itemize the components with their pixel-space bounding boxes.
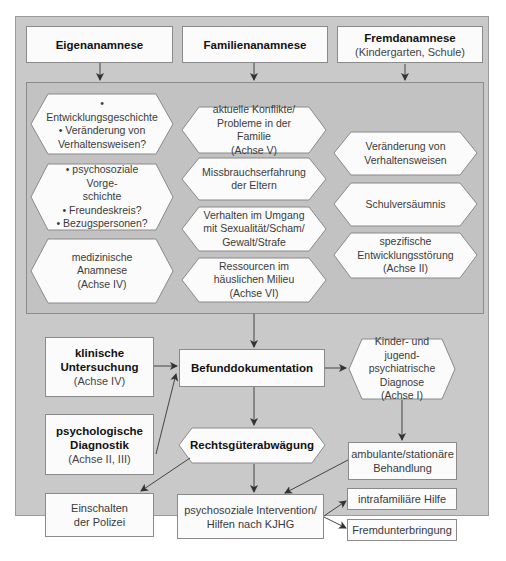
befund-title: Befunddokumentation — [191, 361, 313, 375]
text-line: Missbrauchserfahrung — [202, 166, 306, 180]
familienanamnese-box: Familienanamnese — [182, 26, 328, 63]
intervention-box: psychosoziale Intervention/ Hilfen nach … — [177, 494, 324, 539]
hex-medizinische-anamnese: medizinische Anamnese (Achse IV) — [30, 238, 174, 304]
text-line: Entwicklungsstörung — [357, 249, 453, 263]
psychologische-subtitle: (Achse II, III) — [68, 452, 130, 466]
klinische-untersuchung-box: klinische Untersuchung (Achse IV) — [45, 337, 154, 397]
hex-diagnose: Kinder- und jugend- psychiatrische Diagn… — [348, 338, 456, 400]
text-line: ambulante/stationäre — [351, 447, 454, 461]
text-line: Schulversäumnis — [366, 198, 446, 212]
familienanamnese-title: Familienanamnese — [204, 38, 307, 52]
text-line: spezifische — [357, 235, 453, 249]
text-line: Behandlung — [373, 461, 432, 475]
text-line: aktuelle Konflikte/ — [203, 103, 305, 117]
text-line: (Achse V) — [203, 144, 305, 158]
intrafamiliaere-hilfe-box: intrafamiliäre Hilfe — [347, 488, 457, 510]
polizei-box: Einschalten der Polizei — [45, 493, 154, 537]
text-line: Kinder- und jugend- — [356, 335, 448, 362]
psychologische-title-2: Diagnostik — [70, 438, 129, 452]
text-line: (Achse IV) — [52, 278, 152, 292]
text-line: Einschalten — [71, 501, 128, 515]
text-line: • Bezugspersonen? — [52, 217, 152, 231]
hex-verhalten-umgang: Verhalten im Umgang mit Sexualität/Scham… — [181, 206, 327, 252]
befunddokumentation-box: Befunddokumentation — [179, 349, 325, 387]
hex-entwicklungsstoerung: spezifische Entwicklungsstörung (Achse I… — [333, 232, 478, 279]
rechtsgueter-title: Rechtsgüterabwägung — [190, 439, 314, 451]
fremdanamnese-subtitle: (Kindergarten, Schule) — [355, 45, 465, 59]
eigenanamnese-title: Eigenanamnese — [56, 38, 144, 52]
text-line: • Freundeskreis? — [52, 204, 152, 218]
text-line: häuslichen Milieu — [214, 273, 295, 287]
psychologische-title-1: psychologische — [56, 424, 143, 438]
psychologische-diagnostik-box: psychologische Diagnostik (Achse II, III… — [45, 414, 154, 475]
behandlung-box: ambulante/stationäre Behandlung — [348, 442, 457, 480]
text-line: schichte — [52, 190, 152, 204]
text-line: (Achse I) — [356, 389, 448, 403]
text-line: • Entwicklungsgeschichte — [46, 97, 157, 124]
hex-missbrauchserfahrung: Missbrauchserfahrung der Eltern — [181, 157, 327, 201]
fremdunterbringung-title: Fremdunterbringung — [352, 523, 452, 537]
text-line: • psychosoziale Vorge- — [52, 163, 152, 190]
hex-psychosoziale-vorgeschichte: • psychosoziale Vorge- schichte • Freund… — [30, 163, 174, 231]
text-line: psychiatrische — [356, 362, 448, 376]
fremdunterbringung-box: Fremdunterbringung — [347, 519, 457, 541]
text-line: (Achse VI) — [214, 287, 295, 301]
text-line: Diagnose — [356, 376, 448, 390]
text-line: der Eltern — [202, 179, 306, 193]
hex-rechtsgueterabwaegung: Rechtsgüterabwägung — [178, 427, 326, 464]
hex-aktuelle-konflikte: aktuelle Konflikte/ Probleme in der Fami… — [181, 106, 327, 154]
text-line: Verhaltensweisen — [364, 154, 446, 168]
hex-veraenderung-verhaltensweisen: Veränderung von Verhaltensweisen — [333, 131, 478, 176]
text-line: Probleme in der Familie — [203, 117, 305, 144]
text-line: Verhalten im Umgang — [203, 209, 305, 223]
text-line: mit Sexualität/Scham/ — [203, 222, 305, 236]
text-line: (Achse II) — [357, 262, 453, 276]
text-line: Gewalt/Strafe — [203, 236, 305, 250]
hex-schulversaeumnis: Schulversäumnis — [333, 182, 478, 227]
klinische-title-1: klinische — [75, 346, 124, 360]
text-line: Veränderung von — [364, 140, 446, 154]
hex-ressourcen: Ressourcen im häuslichen Milieu (Achse V… — [181, 257, 327, 303]
text-line: medizinische Anamnese — [52, 251, 152, 278]
klinische-subtitle: (Achse IV) — [74, 374, 125, 388]
eigenanamnese-box: Eigenanamnese — [26, 26, 173, 63]
fremdanamnese-title: Fremdanamnese — [364, 31, 455, 45]
intrafamiliaer-title: intrafamiliäre Hilfe — [358, 492, 446, 506]
text-line: psychosoziale Intervention/ — [184, 503, 317, 517]
hex-entwicklungsgeschichte: • Entwicklungsgeschichte • Veränderung v… — [30, 93, 174, 155]
text-line: Verhaltensweisen? — [46, 138, 157, 152]
text-line: Ressourcen im — [214, 260, 295, 274]
text-line: der Polizei — [74, 515, 125, 529]
text-line: • Veränderung von — [46, 124, 157, 138]
text-line: Hilfen nach KJHG — [207, 517, 294, 531]
klinische-title-2: Untersuchung — [61, 360, 139, 374]
fremdanamnese-box: Fremdanamnese (Kindergarten, Schule) — [337, 26, 483, 63]
